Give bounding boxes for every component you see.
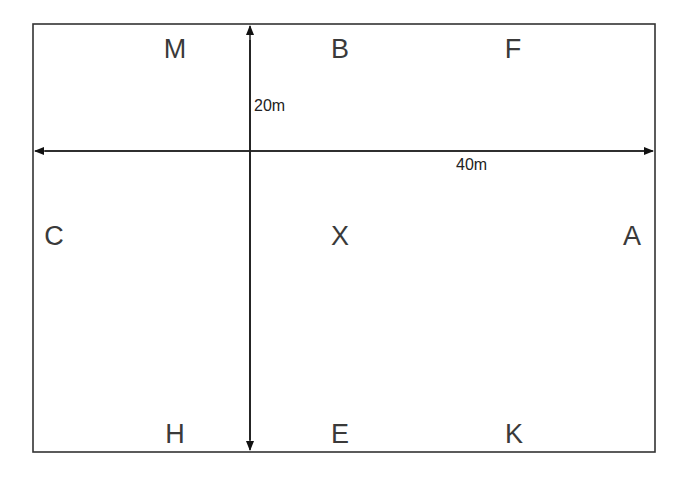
marker-c: C bbox=[44, 223, 64, 250]
marker-a: A bbox=[623, 223, 641, 250]
marker-m: M bbox=[164, 36, 187, 63]
length-label: 40m bbox=[456, 157, 487, 173]
marker-x: X bbox=[331, 223, 349, 250]
marker-e: E bbox=[331, 421, 349, 448]
marker-k: K bbox=[505, 421, 523, 448]
width-label: 20m bbox=[254, 98, 285, 114]
marker-h: H bbox=[165, 421, 185, 448]
marker-f: F bbox=[505, 36, 522, 63]
marker-b: B bbox=[331, 36, 349, 63]
